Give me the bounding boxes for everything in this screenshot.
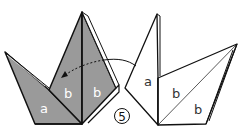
step-number: 5 (118, 110, 126, 124)
origami-step-diagram: a b b a b b 5 (0, 0, 239, 126)
right-label-a: a (144, 74, 152, 89)
right-left-flap (125, 14, 158, 125)
right-label-b2: b (194, 102, 202, 117)
right-figure (125, 14, 237, 125)
left-label-b1: b (64, 86, 72, 101)
left-label-b2: b (93, 85, 101, 100)
right-label-b1: b (172, 86, 180, 101)
left-label-a: a (40, 101, 48, 116)
left-figure (5, 12, 119, 124)
step-number-badge: 5 (115, 109, 130, 124)
